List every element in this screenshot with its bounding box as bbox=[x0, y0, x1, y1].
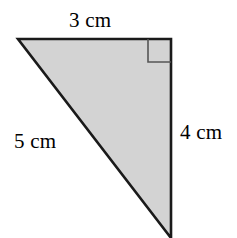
side-label-top: 3 cm bbox=[69, 10, 111, 31]
triangle-graphic bbox=[0, 0, 237, 238]
side-label-right: 4 cm bbox=[180, 122, 222, 143]
side-label-hypotenuse: 5 cm bbox=[14, 131, 56, 152]
geometry-figure: 3 cm 4 cm 5 cm bbox=[0, 0, 237, 238]
